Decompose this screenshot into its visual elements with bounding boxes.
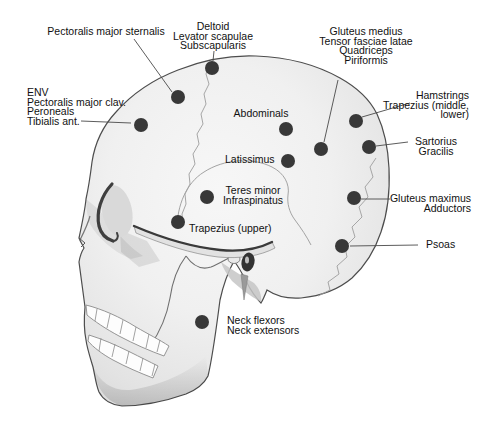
muscle-dot-deltoid-group: [205, 61, 219, 75]
muscle-dot-env-group: [134, 118, 148, 132]
muscle-dot-sartorius-group: [362, 140, 376, 154]
label-abdominals: Abdominals: [234, 107, 289, 119]
label-trapezius-upper: Trapezius (upper): [189, 222, 271, 234]
skull-muscle-map-diagram: Pectoralis major sternalisDeltoidLevator…: [0, 0, 498, 429]
muscle-dot-gluteus-medius-group: [314, 142, 328, 156]
label-line: Trapezius (upper): [189, 222, 271, 234]
muscle-dot-latissimus: [281, 154, 295, 168]
label-latissimus: Latissimus: [225, 153, 275, 165]
label-line: Piriformis: [344, 54, 388, 66]
label-line: Neck extensors: [227, 324, 299, 336]
muscle-dot-gluteus-maximus-group: [347, 191, 361, 205]
label-hamstrings-group: HamstringsTrapezius (middle,lower): [383, 89, 469, 120]
label-line: Latissimus: [225, 153, 275, 165]
label-line: Subscapularis: [180, 39, 246, 51]
ear-canal-highlight: [245, 257, 249, 264]
figure-canvas: Pectoralis major sternalisDeltoidLevator…: [0, 0, 498, 429]
label-psoas: Psoas: [426, 238, 455, 250]
label-teres-minor-group: Teres minorInfraspinatus: [223, 184, 283, 206]
label-sartorius-group: SartoriusGracilis: [415, 135, 457, 157]
label-line: Psoas: [426, 238, 455, 250]
muscle-dot-pectoralis-major-sternalis: [171, 90, 185, 104]
label-gluteus-medius-group: Gluteus mediusTensor fasciae lataeQuadri…: [319, 25, 413, 66]
muscle-dot-abdominals: [279, 122, 293, 136]
label-line: Infraspinatus: [223, 194, 283, 206]
label-line: Pectoralis major sternalis: [47, 25, 164, 37]
label-line: lower): [440, 108, 469, 120]
label-pectoralis-major-sternalis: Pectoralis major sternalis: [47, 25, 164, 37]
label-line: Gracilis: [418, 145, 453, 157]
label-neck-group: Neck flexorsNeck extensors: [227, 314, 299, 336]
label-line: Tibialis ant.: [27, 115, 80, 127]
muscle-dot-trapezius-upper: [171, 215, 185, 229]
label-line: Adductors: [424, 202, 471, 214]
muscle-dot-teres-minor-group: [200, 190, 214, 204]
label-gluteus-maximus-group: Gluteus maximusAdductors: [390, 192, 471, 214]
muscle-dot-hamstrings-group: [349, 114, 363, 128]
label-deltoid-group: DeltoidLevator scapulaeSubscapularis: [173, 20, 253, 51]
label-line: Abdominals: [234, 107, 289, 119]
muscle-dot-psoas: [335, 239, 349, 253]
muscle-dot-neck-group: [195, 315, 209, 329]
